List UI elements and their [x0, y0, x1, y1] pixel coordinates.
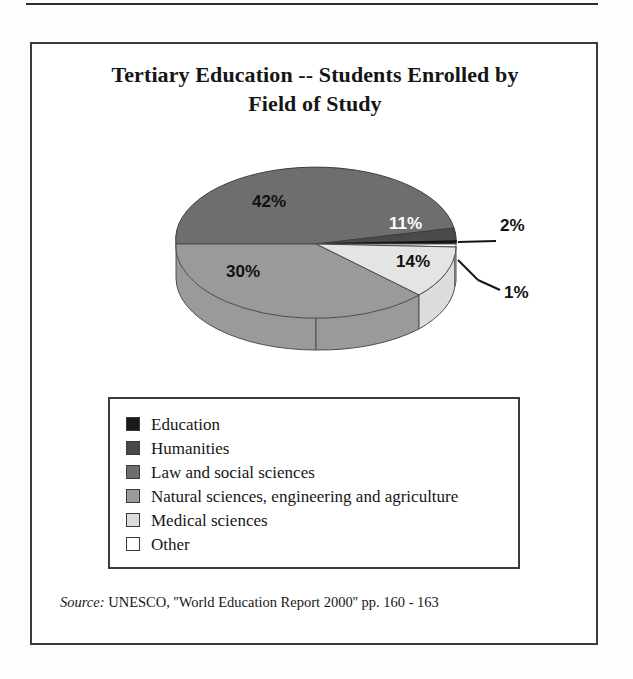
chart-title-line-1: Tertiary Education -- Students Enrolled … — [82, 60, 548, 89]
legend-swatch-other-icon — [126, 537, 140, 551]
pie-label-natural-sciences: 30% — [226, 262, 260, 282]
legend-list: Education Humanities Law and social scie… — [126, 412, 512, 556]
pie-label-medical-sciences: 14% — [396, 252, 430, 272]
legend-item-other: Other — [126, 532, 512, 556]
legend-label-law-social-sciences: Law and social sciences — [151, 464, 315, 481]
source-note: Source: UNESCO, ''World Education Report… — [60, 594, 439, 611]
chart-title: Tertiary Education -- Students Enrolled … — [82, 60, 548, 118]
leader-line-other — [458, 260, 478, 280]
legend-item-education: Education — [126, 412, 512, 436]
legend-item-natural-sciences: Natural sciences, engineering and agricu… — [126, 484, 512, 508]
legend-box: Education Humanities Law and social scie… — [108, 397, 520, 569]
pie-chart: 42% 11% 2% 14% 30% 1% — [34, 140, 598, 400]
legend-item-medical-sciences: Medical sciences — [126, 508, 512, 532]
source-text: UNESCO, ''World Education Report 2000'' … — [108, 594, 439, 610]
leader-line-education — [458, 241, 496, 242]
pie-label-law-social-sciences: 42% — [252, 192, 286, 212]
leader-line-other-2 — [478, 280, 500, 290]
legend-label-education: Education — [151, 416, 220, 433]
figure-frame: Tertiary Education -- Students Enrolled … — [30, 42, 598, 645]
legend-label-humanities: Humanities — [151, 440, 229, 457]
legend-swatch-humanities-icon — [126, 441, 140, 455]
legend-label-natural-sciences: Natural sciences, engineering and agricu… — [151, 488, 458, 505]
legend-swatch-natural-icon — [126, 489, 140, 503]
pie-label-humanities: 11% — [389, 214, 422, 234]
legend-label-other: Other — [151, 536, 190, 553]
pie-label-education: 2% — [500, 216, 525, 236]
source-keyword: Source: — [60, 594, 105, 610]
legend-item-humanities: Humanities — [126, 436, 512, 460]
legend-item-law-social-sciences: Law and social sciences — [126, 460, 512, 484]
legend-label-medical-sciences: Medical sciences — [151, 512, 268, 529]
legend-swatch-medical-icon — [126, 513, 140, 527]
pie-label-other: 1% — [504, 283, 529, 303]
legend-swatch-education-icon — [126, 417, 140, 431]
page-top-rule — [26, 3, 598, 5]
pie-top-face — [176, 167, 456, 318]
legend-swatch-law-icon — [126, 465, 140, 479]
chart-title-line-2: Field of Study — [82, 89, 548, 118]
pie-chart-graphic — [34, 140, 598, 400]
